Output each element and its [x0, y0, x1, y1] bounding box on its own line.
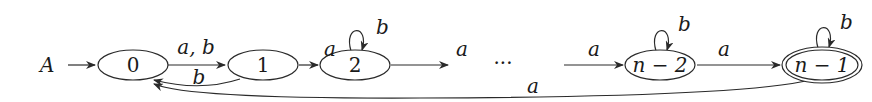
start-label: A: [38, 53, 54, 77]
state-n-2-label: n − 2: [632, 53, 687, 77]
loop-n1: [817, 28, 831, 48]
label-0-1: a, b: [177, 35, 214, 59]
label-1-2: a: [324, 37, 336, 61]
label-n2-n1: a: [718, 37, 730, 61]
label-loop-n2: b: [678, 12, 691, 36]
loop-n2: [655, 31, 669, 51]
label-dots-n2: a: [588, 37, 600, 61]
edge-n1-0: [154, 80, 810, 98]
state-0-label: 0: [127, 53, 140, 77]
automaton-diagram: A 0 1 2 ··· n − 2 n − 1 a, b b a b a a b…: [0, 0, 872, 102]
state-1-label: 1: [257, 53, 270, 77]
state-n-1-label: n − 1: [794, 53, 849, 77]
state-2-label: 2: [349, 53, 362, 77]
label-1-0: b: [193, 65, 206, 89]
loop-2: [350, 31, 364, 51]
label-n1-0: a: [527, 74, 539, 98]
label-2-dots: a: [456, 37, 468, 61]
ellipsis: ···: [493, 51, 512, 75]
label-loop-2: b: [376, 15, 389, 39]
label-loop-n1: b: [840, 10, 853, 34]
